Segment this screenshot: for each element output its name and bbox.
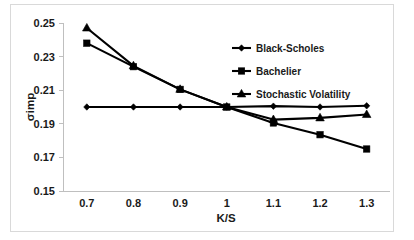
data-point-marker	[84, 40, 90, 46]
data-point-marker	[317, 132, 323, 138]
data-point-marker	[363, 146, 369, 152]
y-tick-label: 0.25	[34, 17, 55, 29]
legend-marker-square-icon	[238, 68, 244, 74]
legend-label: Bachelier	[256, 66, 301, 77]
y-tick-label: 0.21	[34, 84, 55, 96]
legend-label: Black-Scholes	[256, 43, 325, 54]
x-tick-label: 0.8	[126, 197, 141, 209]
x-tick-label: 0.9	[172, 197, 187, 209]
data-point-marker	[83, 23, 92, 31]
chart-figure: 0.150.170.190.210.230.25 σimp 0.70.80.91…	[0, 0, 414, 240]
y-axis-tick-labels: 0.150.170.190.210.230.25	[34, 17, 55, 197]
x-tick-label: 1	[224, 197, 230, 209]
x-axis: 0.70.80.911.11.21.3 K/S	[64, 192, 391, 225]
data-point-marker	[270, 103, 276, 109]
legend-item-bachelier: Bachelier	[232, 66, 301, 77]
y-axis: 0.150.170.190.210.230.25 σimp	[24, 17, 64, 197]
y-tick-label: 0.23	[34, 51, 55, 63]
legend-item-stochastic-volatility: Stochastic Volatility	[232, 89, 351, 100]
y-tick-label: 0.17	[34, 151, 55, 163]
x-tick-label: 1.1	[266, 197, 281, 209]
legend-marker-diamond-icon	[238, 45, 244, 51]
y-axis-tick-marks	[59, 23, 64, 191]
data-point-marker	[177, 104, 183, 110]
x-tick-label: 1.3	[359, 197, 374, 209]
y-axis-title: σimp	[24, 93, 36, 121]
x-axis-title: K/S	[216, 212, 236, 224]
legend-label: Stochastic Volatility	[256, 89, 351, 100]
data-point-marker	[317, 104, 323, 110]
implied-volatility-smile-chart: 0.150.170.190.210.230.25 σimp 0.70.80.91…	[0, 0, 414, 240]
legend-item-black-scholes: Black-Scholes	[232, 43, 325, 54]
y-tick-label: 0.15	[34, 185, 55, 197]
x-tick-label: 0.7	[79, 197, 94, 209]
y-tick-label: 0.19	[34, 118, 55, 130]
chart-legend: Black-ScholesBachelierStochastic Volatil…	[232, 43, 351, 100]
data-point-marker	[84, 104, 90, 110]
data-point-marker	[130, 104, 136, 110]
data-point-marker	[364, 103, 370, 109]
x-tick-label: 1.2	[312, 197, 327, 209]
x-axis-tick-labels: 0.70.80.911.11.21.3	[79, 197, 374, 209]
